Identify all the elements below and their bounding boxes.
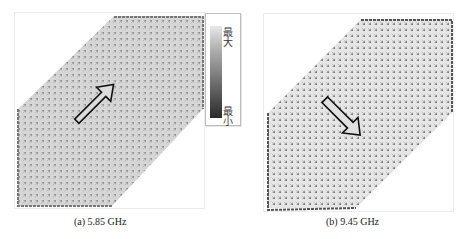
panel-a-current-distribution xyxy=(14,12,205,209)
surface-current-field-a xyxy=(15,13,204,208)
legend-max-label: 最大 xyxy=(223,28,240,48)
legend-min-label: 最小 xyxy=(223,107,240,127)
color-scale-legend: 最大 最小 xyxy=(205,13,241,126)
caption-panel-a: (a) 5.85 GHz xyxy=(74,216,126,227)
surface-current-field-b xyxy=(264,14,453,211)
panel-b-current-distribution xyxy=(263,13,454,212)
gradient-bar xyxy=(210,26,222,118)
caption-panel-b: (b) 9.45 GHz xyxy=(326,216,379,227)
